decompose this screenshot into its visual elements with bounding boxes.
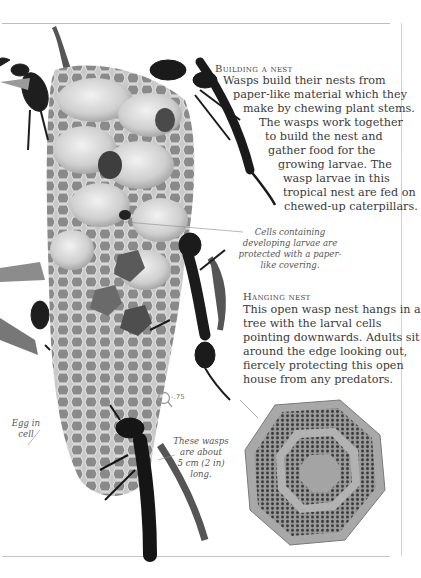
body-line: The wasps work together	[259, 116, 403, 130]
body-line: make by chewing plant stems.	[243, 102, 415, 116]
caption-line: long.	[172, 469, 230, 480]
wasp-left-middle	[0, 262, 50, 355]
body-line: pointing downwards. Adults sit	[243, 331, 420, 345]
hanging-nest-comb	[245, 400, 385, 545]
comb-leader-line	[240, 400, 258, 418]
body-line: tree with the larval cells	[243, 317, 381, 331]
caption-line: 5 cm (2 in)	[172, 458, 230, 469]
caption-line: developing larvae are	[235, 238, 345, 249]
heading-building-a-nest: Building a nest	[215, 63, 292, 74]
body-line: chewed-up caterpillars.	[284, 200, 418, 214]
caption-line: Egg in	[6, 418, 46, 429]
body-line: wasp larvae in this	[283, 172, 390, 186]
caption-line: are about	[172, 447, 230, 458]
caption-egg: Egg in cell	[6, 418, 46, 440]
body-line: This open wasp nest hangs in a	[243, 303, 421, 317]
caption-size: These wasps are about 5 cm (2 in) long.	[172, 436, 230, 480]
body-line: gather food for the	[268, 144, 376, 158]
heading-hanging-nest: Hanging nest	[243, 291, 310, 302]
body-line: to build the nest and	[265, 130, 383, 144]
caption-line: cell	[6, 429, 46, 440]
body-line: growing larvae. The	[278, 158, 392, 172]
body-line: paper-like material which they	[233, 88, 407, 102]
caption-line: protected with a paper-	[235, 249, 345, 260]
body-line: around the edge looking out,	[243, 345, 407, 359]
caption-line: These wasps	[172, 436, 230, 447]
caption-line: like covering.	[235, 260, 345, 271]
scale-label: -.75	[171, 393, 185, 401]
body-line: fiercely protecting this open	[243, 359, 404, 373]
body-line: house from any predators.	[243, 373, 393, 387]
body-line: Wasps build their nests from	[223, 74, 386, 88]
body-line: tropical nest are fed on	[283, 186, 416, 200]
nest-stalk	[52, 26, 72, 72]
wasp-left-top	[0, 58, 53, 150]
caption-cells: Cells containing developing larvae are p…	[235, 227, 345, 271]
caption-line: Cells containing	[235, 227, 345, 238]
